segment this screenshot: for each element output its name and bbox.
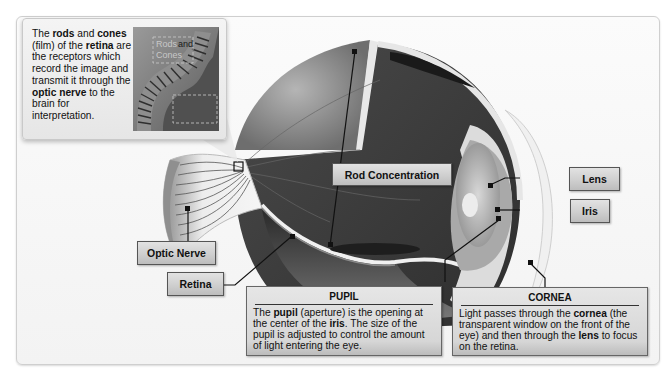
and-label: and: [178, 39, 193, 49]
text-run-bold: cones: [97, 28, 126, 39]
cornea-info-box: CORNEA Light passes through the cornea (…: [452, 287, 648, 356]
text-run-bold: optic nerve: [32, 87, 86, 98]
text-run-bold: iris: [329, 318, 344, 329]
rods-cones-closeup-image: Rods and Cones: [133, 27, 219, 131]
label-text: Retina: [179, 278, 211, 290]
text-run-bold: cornea: [573, 308, 606, 319]
label-text: Lens: [582, 173, 607, 185]
label-retina: Retina: [167, 272, 224, 296]
rods-cones-inset: The rods and cones (film) of the retina …: [22, 18, 227, 140]
label-iris: Iris: [570, 199, 610, 223]
label-text: Rod Concentration: [345, 169, 440, 181]
text-run-bold: rods: [52, 28, 74, 39]
cones-label: Cones: [156, 50, 183, 60]
inset-description: The rods and cones (film) of the retina …: [32, 28, 132, 122]
text-run-bold: lens: [579, 330, 599, 341]
text-run: The: [253, 307, 273, 318]
text-run: The: [32, 28, 52, 39]
text-run-bold: retina: [86, 40, 114, 51]
pupil-description: The pupil (aperture) is the opening at t…: [247, 305, 441, 351]
text-run: Light passes through the: [459, 308, 573, 319]
pupil-info-box: PUPIL The pupil (aperture) is the openin…: [246, 286, 442, 356]
cornea-description: Light passes through the cornea (the tra…: [453, 306, 647, 352]
label-rod-concentration: Rod Concentration: [332, 163, 452, 186]
text-run: and: [74, 28, 97, 39]
label-text: Iris: [582, 205, 598, 217]
rods-label: Rods: [156, 39, 178, 49]
text-run: (film) of the: [32, 40, 86, 51]
label-text: Optic Nerve: [147, 247, 206, 259]
pupil-heading: PUPIL: [255, 287, 433, 305]
cornea-heading: CORNEA: [461, 288, 639, 306]
sclera: [235, 40, 378, 150]
label-optic-nerve: Optic Nerve: [137, 241, 216, 265]
text-run-bold: pupil: [273, 307, 297, 318]
label-lens: Lens: [569, 167, 620, 191]
